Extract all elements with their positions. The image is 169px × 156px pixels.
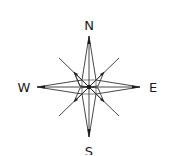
compass-rose: N W E S bbox=[0, 0, 169, 155]
north-label: N bbox=[84, 19, 94, 32]
south-label: S bbox=[85, 145, 93, 156]
west-label: W bbox=[18, 81, 31, 94]
east-label: E bbox=[149, 81, 157, 94]
